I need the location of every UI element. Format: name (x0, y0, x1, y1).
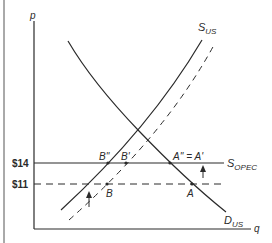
x-axis-label: q (254, 223, 260, 234)
supply-curve-label: SUS (198, 21, 217, 36)
point-b (105, 182, 108, 185)
point-a-double-prime (168, 161, 171, 164)
supply-demand-diagram: p q $14 $11 SOPEC DUS SUS B'' B' B A'' =… (0, 0, 272, 243)
demand-curve-us (68, 41, 226, 212)
label-b-double-prime: B'' (99, 151, 111, 162)
price-label-14: $14 (12, 158, 29, 169)
price-label-11: $11 (12, 179, 29, 190)
label-b: B (106, 188, 113, 199)
shift-arrow-right (200, 165, 206, 178)
label-a-double-prime-eq-a-prime: A'' = A' (172, 151, 204, 162)
shift-arrow-left (86, 191, 92, 207)
label-b-prime: B' (121, 151, 131, 162)
point-a (190, 182, 193, 185)
label-a: A (186, 188, 194, 199)
demand-curve-label: DUS (224, 214, 244, 229)
opec-supply-label: SOPEC (227, 157, 257, 172)
y-axis-label: p (29, 10, 36, 21)
